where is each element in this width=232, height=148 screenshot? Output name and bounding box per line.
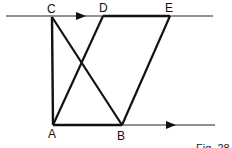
top-arrow-icon (76, 12, 86, 20)
geometry-figure: C D E A B Fig. 28 (0, 0, 232, 148)
segment-CA (52, 17, 53, 125)
figure-caption: Fig. 28 (196, 143, 230, 148)
segment-EB (122, 16, 170, 125)
segment-AD (53, 16, 103, 125)
figure-lines (0, 0, 232, 148)
point-label-b: B (117, 130, 125, 142)
point-label-c: C (47, 3, 56, 15)
bottom-arrow-icon (166, 121, 176, 129)
segment-CB (52, 17, 122, 125)
point-label-a: A (48, 128, 56, 140)
point-label-e: E (165, 2, 173, 14)
point-label-d: D (99, 2, 108, 14)
